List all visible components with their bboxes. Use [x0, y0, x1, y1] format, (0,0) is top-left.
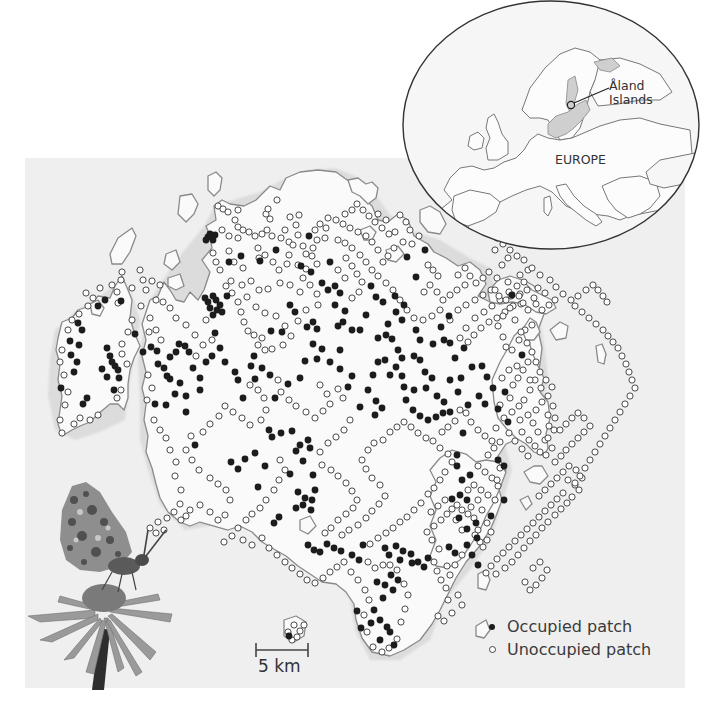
unoccupied-patch — [149, 385, 155, 391]
unoccupied-patch — [300, 243, 306, 249]
unoccupied-patch — [486, 319, 492, 325]
occupied-patch — [354, 608, 361, 615]
unoccupied-patch — [167, 305, 173, 311]
unoccupied-patch — [259, 335, 265, 341]
unoccupied-patch — [383, 217, 389, 223]
occupied-patch — [417, 357, 424, 364]
unoccupied-patch — [324, 391, 330, 397]
occupied-patch — [210, 312, 217, 319]
occupied-patch — [67, 338, 74, 345]
occupied-patch — [107, 353, 114, 360]
unoccupied-patch — [360, 207, 366, 213]
unoccupied-patch — [124, 361, 130, 367]
unoccupied-patch — [343, 255, 349, 261]
unoccupied-patch — [77, 415, 83, 421]
unoccupied-patch — [284, 261, 290, 267]
unoccupied-patch — [492, 497, 498, 503]
occupied-patch — [317, 549, 324, 556]
unoccupied-patch — [349, 245, 355, 251]
unoccupied-patch — [349, 263, 355, 269]
unoccupied-patch — [550, 403, 556, 409]
occupied-patch — [190, 365, 197, 372]
unoccupied-patch — [600, 327, 606, 333]
unoccupied-patch — [408, 424, 414, 430]
unoccupied-patch — [362, 587, 368, 593]
unoccupied-patch — [525, 412, 531, 418]
unoccupied-patch — [397, 212, 403, 218]
unoccupied-patch — [244, 294, 250, 300]
unoccupied-patch — [452, 418, 458, 424]
unoccupied-patch — [434, 568, 440, 574]
occupied-patch — [310, 341, 317, 348]
unoccupied-patch — [263, 497, 269, 503]
unoccupied-patch — [172, 473, 178, 479]
unoccupied-patch — [489, 303, 495, 309]
occupied-patch — [356, 557, 363, 564]
unoccupied-patch — [312, 580, 318, 586]
unoccupied-patch — [59, 347, 65, 353]
occupied-patch — [279, 329, 286, 336]
unoccupied-patch — [173, 459, 179, 465]
occupied-patch — [382, 582, 389, 589]
unoccupied-patch — [439, 429, 445, 435]
occupied-patch — [440, 410, 447, 417]
unoccupied-patch — [575, 410, 581, 416]
unoccupied-patch — [481, 309, 487, 315]
unoccupied-patch — [494, 477, 500, 483]
unoccupied-patch — [424, 529, 430, 535]
unoccupied-patch — [262, 310, 268, 316]
unoccupied-patch — [563, 447, 569, 453]
occupied-patch — [224, 293, 231, 300]
unoccupied-patch — [607, 425, 613, 431]
unoccupied-patch — [401, 581, 407, 587]
unoccupied-patch — [449, 610, 455, 616]
occupied-patch — [306, 233, 313, 240]
unoccupied-patch — [539, 399, 545, 405]
unoccupied-patch — [213, 259, 219, 265]
occupied-patch — [387, 372, 394, 379]
unoccupied-patch — [612, 417, 618, 423]
occupied-patch — [383, 332, 390, 339]
unoccupied-patch — [349, 295, 355, 301]
occupied-patch — [276, 514, 283, 521]
occupied-patch — [464, 542, 471, 549]
unoccupied-patch — [235, 207, 241, 213]
unoccupied-patch — [385, 253, 391, 259]
occupied-patch — [289, 428, 296, 435]
unoccupied-patch — [226, 248, 232, 254]
unoccupied-patch — [286, 252, 292, 258]
occupied-patch — [409, 560, 416, 567]
unoccupied-patch — [537, 369, 543, 375]
unoccupied-patch — [484, 520, 490, 526]
occupied-patch — [411, 387, 418, 394]
unoccupied-patch — [457, 407, 463, 413]
occupied-patch — [452, 550, 459, 557]
occupied-patch — [252, 376, 259, 383]
unoccupied-patch — [457, 335, 463, 341]
unoccupied-patch — [255, 387, 261, 393]
unoccupied-patch — [309, 253, 315, 259]
occupied-patch — [79, 327, 86, 334]
unoccupied-patch — [560, 291, 566, 297]
occupied-patch — [327, 259, 334, 266]
unoccupied-patch — [577, 473, 583, 479]
unoccupied-patch — [221, 539, 227, 545]
unoccupied-patch — [401, 419, 407, 425]
unoccupied-patch — [515, 375, 521, 381]
unoccupied-patch — [397, 519, 403, 525]
unoccupied-patch — [465, 487, 471, 493]
unoccupied-patch — [437, 307, 443, 313]
unoccupied-patch — [364, 629, 370, 635]
unoccupied-patch — [546, 302, 552, 308]
occupied-patch — [286, 633, 293, 640]
unoccupied-patch — [520, 300, 526, 306]
unoccupied-patch — [228, 278, 234, 284]
unoccupied-patch — [506, 367, 512, 373]
unoccupied-patch — [543, 377, 549, 383]
unoccupied-patch — [346, 527, 352, 533]
unoccupied-patch — [225, 209, 231, 215]
unoccupied-patch — [315, 302, 321, 308]
unoccupied-patch — [492, 287, 498, 293]
unoccupied-patch — [521, 545, 527, 551]
occupied-patch — [186, 349, 193, 356]
